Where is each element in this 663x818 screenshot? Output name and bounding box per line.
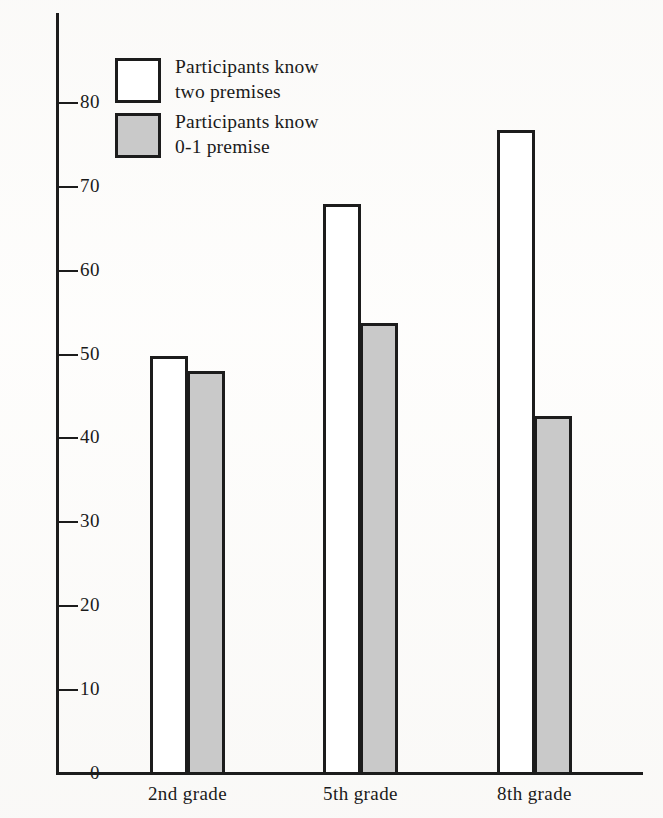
- bar-5th-grade-series-2: [360, 323, 398, 775]
- y-tick-label: 70: [54, 176, 100, 195]
- chart-legend: Participants know two premises Participa…: [115, 56, 405, 166]
- legend-label-zero-one-premise: Participants know 0-1 premise: [175, 109, 319, 159]
- x-category-label-3: 8th grade: [465, 783, 605, 805]
- bar-2nd-grade-series-2: [187, 371, 225, 775]
- bar-5th-grade-series-1: [323, 204, 361, 775]
- x-category-label-1: 2nd grade: [118, 783, 258, 805]
- bar-8th-grade-series-2: [534, 416, 572, 775]
- y-axis-line: [56, 13, 59, 775]
- legend-entry-zero-one-premise: Participants know 0-1 premise: [115, 111, 405, 161]
- legend-swatch-shaded-icon: [115, 113, 161, 158]
- y-tick-label: 10: [54, 679, 100, 698]
- x-category-label-2: 5th grade: [291, 783, 431, 805]
- bar-chart: 01020304050607080 2nd grade5th grade8th …: [0, 0, 663, 818]
- bar-8th-grade-series-1: [497, 130, 535, 775]
- y-tick-label: 20: [54, 595, 100, 614]
- bar-2nd-grade-series-1: [150, 356, 188, 775]
- legend-swatch-light-icon: [115, 58, 161, 103]
- y-tick-label: 40: [54, 427, 100, 446]
- y-tick-label: 50: [54, 344, 100, 363]
- legend-entry-two-premises: Participants know two premises: [115, 56, 405, 106]
- y-tick-label: 80: [54, 92, 100, 111]
- legend-label-two-premises: Participants know two premises: [175, 54, 319, 104]
- y-tick-label: 0: [54, 763, 100, 782]
- y-tick-label: 60: [54, 260, 100, 279]
- y-tick-label: 30: [54, 511, 100, 530]
